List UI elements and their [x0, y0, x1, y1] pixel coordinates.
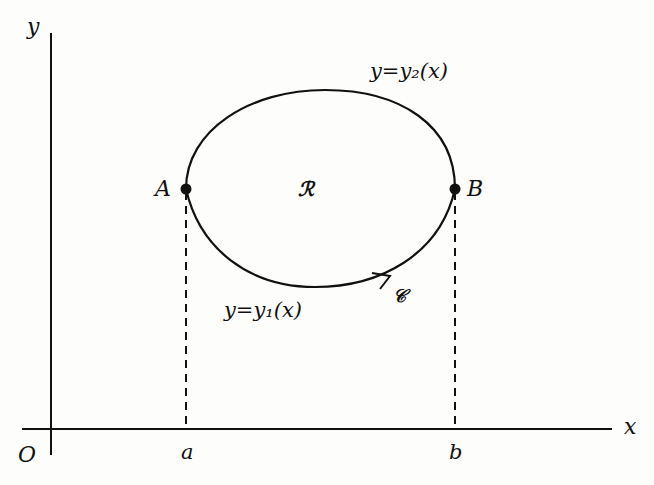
- lower-curve: [186, 189, 455, 287]
- upper-curve-label: y=y₂(x): [369, 59, 448, 83]
- origin-label: O: [18, 442, 36, 467]
- point-a-label: A: [153, 176, 171, 201]
- y-axis-label: y: [26, 14, 40, 39]
- upper-curve: [186, 90, 455, 189]
- diagram-canvas: y x O A B a b y=y₂(x) y=y₁(x) ℛ 𝒞: [0, 0, 654, 485]
- direction-arrow-icon: [372, 273, 390, 289]
- x-axis-label: x: [624, 414, 637, 439]
- region-label: ℛ: [298, 177, 316, 201]
- contour-label: 𝒞: [393, 285, 411, 306]
- lower-curve-label: y=y₁(x): [223, 298, 302, 322]
- point-b-label: B: [466, 176, 483, 201]
- tick-b-label: b: [449, 440, 462, 464]
- point-a-dot: [181, 184, 192, 195]
- tick-a-label: a: [181, 440, 194, 464]
- point-b-dot: [450, 184, 461, 195]
